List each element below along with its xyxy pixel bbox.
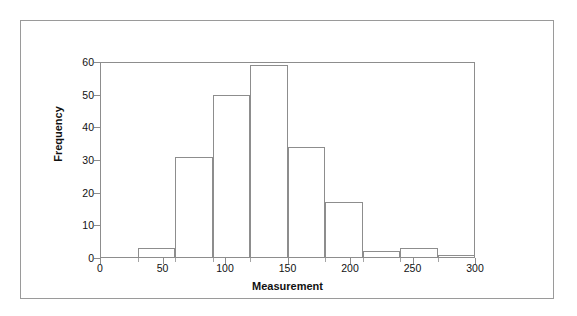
- histogram-bar: [175, 157, 213, 258]
- y-tick-label: 20: [68, 188, 94, 199]
- y-tick-label: 30: [68, 155, 94, 166]
- x-tick-label: 50: [143, 263, 183, 274]
- x-tick-mark-minor: [325, 258, 326, 262]
- y-tick-label: 0: [68, 253, 94, 264]
- histogram-bar: [138, 248, 176, 258]
- y-tick-mark: [94, 160, 100, 161]
- x-tick-label: 250: [393, 263, 433, 274]
- histogram-bar: [363, 251, 401, 258]
- y-tick-label: 50: [68, 90, 94, 101]
- histogram-figure: 0102030405060 050100150200250300 Measure…: [0, 0, 577, 316]
- x-tick-mark-minor: [400, 258, 401, 262]
- histogram-bar: [438, 255, 476, 258]
- x-tick-label: 300: [455, 263, 495, 274]
- x-axis-title: Measurement: [100, 280, 475, 292]
- x-tick-mark-minor: [213, 258, 214, 262]
- y-tick-mark: [94, 62, 100, 63]
- y-tick-mark: [94, 127, 100, 128]
- histogram-bar: [400, 248, 438, 258]
- x-tick-mark-minor: [175, 258, 176, 262]
- x-tick-mark-minor: [363, 258, 364, 262]
- y-axis-title: Frequency: [52, 74, 64, 194]
- x-tick-mark-minor: [138, 258, 139, 262]
- histogram-bar: [250, 65, 288, 258]
- y-tick-label: 60: [68, 57, 94, 68]
- x-tick-label: 0: [80, 263, 120, 274]
- x-tick-label: 200: [330, 263, 370, 274]
- x-tick-label: 100: [205, 263, 245, 274]
- y-tick-mark: [94, 95, 100, 96]
- y-tick-mark: [94, 193, 100, 194]
- y-tick-label: 10: [68, 220, 94, 231]
- x-tick-mark-minor: [250, 258, 251, 262]
- histogram-bar: [213, 95, 251, 258]
- y-tick-mark: [94, 225, 100, 226]
- x-tick-mark-minor: [438, 258, 439, 262]
- histogram-bar: [325, 202, 363, 258]
- y-tick-label: 40: [68, 122, 94, 133]
- x-tick-label: 150: [268, 263, 308, 274]
- histogram-bar: [288, 147, 326, 258]
